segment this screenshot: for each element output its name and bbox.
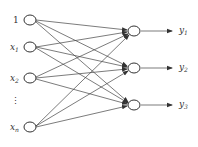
- input-node-x2: [24, 73, 36, 83]
- input-nodes: [24, 15, 36, 132]
- output-node-y2: [128, 63, 140, 73]
- output-label-y2: y2: [178, 62, 188, 73]
- neural-network-diagram: 1 x1 x2 ⋮ xn y1 y2 y3: [0, 0, 198, 147]
- input-labels: 1 x1 x2 ⋮ xn: [10, 15, 20, 133]
- input-node-xn: [24, 122, 36, 132]
- output-label-y3: y3: [178, 99, 188, 110]
- output-node-y3: [128, 100, 140, 110]
- connections: [36, 20, 172, 127]
- input-node-bias: [24, 15, 36, 25]
- input-label-bias: 1: [13, 15, 19, 25]
- ellipsis-label: ⋮: [11, 96, 20, 106]
- output-label-y1: y1: [178, 25, 188, 36]
- output-labels: y1 y2 y3: [178, 25, 188, 110]
- input-label-xn: xn: [10, 122, 19, 133]
- input-node-x1: [24, 42, 36, 52]
- output-node-y1: [128, 26, 140, 36]
- output-nodes: [128, 26, 140, 110]
- input-label-x2: x2: [10, 73, 19, 84]
- input-label-x1: x1: [10, 42, 19, 53]
